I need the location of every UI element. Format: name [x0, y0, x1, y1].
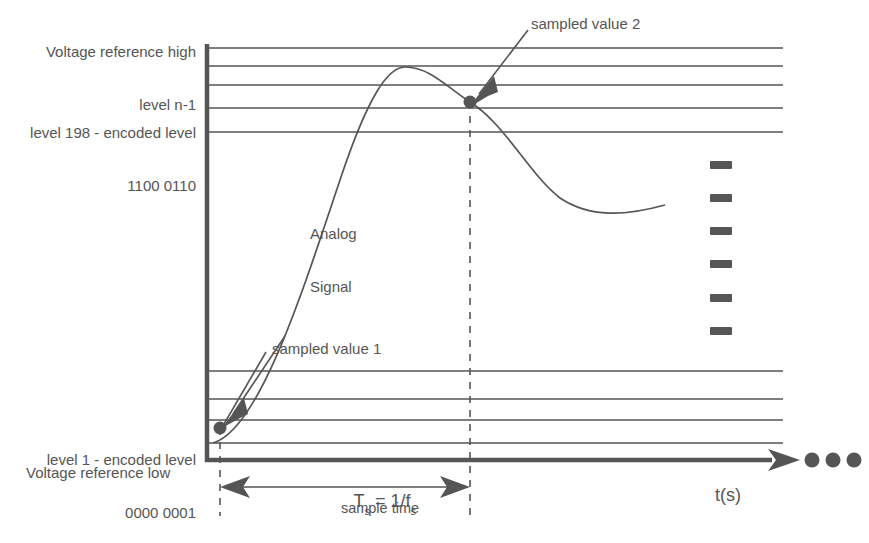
ellipsis-dash — [710, 327, 732, 335]
sample-time-caption: sample time — [300, 500, 460, 517]
time-axis-label: t(s) — [708, 485, 748, 506]
vref-high-line1: Voltage reference high — [0, 43, 196, 61]
level-1-encoded: 0000 0001 — [0, 504, 196, 522]
ellipsis-dash — [710, 227, 732, 235]
ellipsis-dash — [710, 260, 732, 268]
analog-signal-label: Analog Signal — [310, 190, 390, 314]
ellipsis-dash — [710, 194, 732, 202]
sampled-value-1-label: sampled value 1 — [272, 340, 381, 358]
ellipsis-dot — [805, 453, 820, 468]
analog-signal-line1: Analog — [310, 225, 390, 243]
ellipsis-dash — [710, 161, 732, 169]
analog-signal-line2: Signal — [310, 278, 390, 296]
sample-1-arrowhead-icon — [222, 398, 248, 428]
quantization-gridlines-lower — [205, 371, 783, 443]
ellipsis-dot — [847, 453, 862, 468]
analog-signal-curve — [213, 67, 665, 443]
sample-2-arrowhead-icon — [468, 76, 498, 108]
ellipsis-dash — [710, 294, 732, 302]
voltage-reference-low-label: Voltage reference low — [26, 464, 196, 482]
level-198-label: level 198 - encoded level 1100 0110 — [0, 89, 196, 213]
horizontal-ellipsis-icon — [805, 453, 862, 468]
level-198-line1: level 198 - encoded level — [0, 124, 196, 142]
level-198-encoded: 1100 0110 — [0, 177, 196, 195]
time-axis-arrow-icon — [768, 449, 800, 471]
ellipsis-dot — [826, 453, 841, 468]
sampled-value-2-label: sampled value 2 — [531, 15, 640, 33]
vertical-ellipsis-icon — [710, 161, 732, 335]
